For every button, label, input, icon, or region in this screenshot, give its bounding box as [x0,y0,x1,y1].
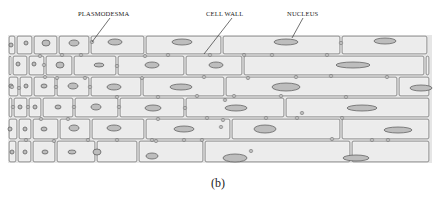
nucleus [374,38,396,44]
nucleus [32,62,36,66]
nucleus [33,105,37,109]
nucleus [174,126,194,132]
figure-caption: (b) [211,176,225,191]
label-cell-wall: CELL WALL [206,10,243,17]
nucleus [223,154,247,162]
nucleus [24,41,28,45]
nucleus [384,127,412,133]
nucleus [93,149,101,155]
nucleus [145,105,161,111]
nucleus [68,83,78,89]
nucleus [24,84,28,88]
cell [29,56,44,75]
nucleus [108,39,122,45]
nucleus [68,150,76,154]
nucleus [8,127,12,131]
nucleus [91,104,101,110]
nucleus [410,85,432,91]
nucleus [107,84,121,90]
cell-wall-highlight [10,57,11,74]
nucleus [69,40,79,46]
nucleus [41,127,47,131]
nucleus [41,84,47,88]
nucleus [42,150,48,154]
nucleus [56,62,64,68]
nucleus [172,39,192,45]
nucleus [170,84,192,90]
cell [226,77,397,96]
cell [17,36,32,54]
nucleus [10,150,14,154]
nucleus [274,39,298,45]
nucleus [55,105,61,109]
nucleus [146,153,158,159]
nucleus [69,125,79,131]
cell [426,56,429,75]
cell [97,141,137,162]
nucleus [42,40,50,46]
nucleus [18,105,22,109]
nucleus [23,127,27,131]
plant-cell-diagram: PLASMODESMA CELL WALL NUCLEUS (b) [0,0,442,200]
label-plasmodesma: PLASMODESMA [78,10,129,17]
nucleus [145,62,159,68]
nucleus [225,105,247,111]
nucleus [272,83,300,91]
cell [232,119,340,139]
nucleus [23,150,27,154]
nucleus [343,155,369,161]
cell [244,56,424,75]
nucleus [209,62,223,68]
label-nucleus: NUCLEUS [287,10,318,17]
nucleus [347,105,377,111]
cell-tissue-illustration [0,0,442,200]
nucleus [9,43,13,47]
nucleus [107,125,121,131]
nucleus [16,62,20,66]
nucleus [94,63,104,67]
nucleus [336,62,370,68]
nucleus [254,125,276,133]
cell [13,56,27,75]
